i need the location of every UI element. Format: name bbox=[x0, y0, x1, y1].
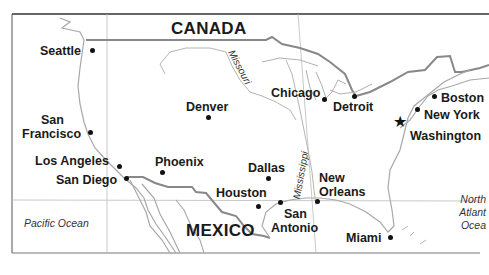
ocean-label-north-atlantic: North Atlant Ocea bbox=[440, 193, 486, 232]
city-marker-miami bbox=[388, 235, 393, 240]
city-label-dallas: Dallas bbox=[248, 161, 285, 175]
city-label-line: San bbox=[271, 207, 318, 221]
city-label-new-orleans: New Orleans bbox=[319, 171, 366, 199]
grid-parallel bbox=[12, 200, 480, 201]
city-label-houston: Houston bbox=[216, 186, 267, 200]
city-label-detroit: Detroit bbox=[333, 100, 373, 114]
city-label-miami: Miami bbox=[346, 231, 381, 245]
city-label-seattle: Seattle bbox=[40, 44, 81, 58]
capital-star-icon: ★ bbox=[393, 114, 407, 130]
city-marker-san-antonio bbox=[278, 200, 283, 205]
city-label-washington: Washington bbox=[410, 129, 481, 143]
city-marker-boston bbox=[432, 94, 437, 99]
city-marker-san-diego bbox=[124, 176, 129, 181]
city-label-san-francisco: San Francisco bbox=[22, 113, 81, 141]
city-marker-dallas bbox=[266, 176, 271, 181]
city-marker-new-orleans bbox=[315, 199, 320, 204]
country-label-mexico: MEXICO bbox=[186, 221, 255, 241]
city-marker-phoenix bbox=[160, 170, 165, 175]
city-label-chicago: Chicago bbox=[271, 86, 320, 100]
city-label-line: Antonio bbox=[271, 221, 318, 235]
city-marker-seattle bbox=[90, 48, 95, 53]
city-marker-chicago bbox=[322, 97, 327, 102]
city-label-san-antonio: San Antonio bbox=[271, 207, 318, 235]
city-marker-los-angeles bbox=[117, 164, 122, 169]
city-marker-detroit bbox=[352, 94, 357, 99]
ocean-label-line: North bbox=[440, 193, 486, 206]
ocean-label-line: Atlant bbox=[440, 206, 486, 219]
city-label-los-angeles: Los Angeles bbox=[35, 154, 109, 168]
country-label-canada: CANADA bbox=[171, 19, 246, 39]
city-marker-new-york bbox=[415, 107, 420, 112]
city-label-line: Francisco bbox=[22, 127, 81, 141]
city-marker-houston bbox=[256, 204, 261, 209]
city-label-new-york: New York bbox=[424, 108, 480, 122]
city-label-denver: Denver bbox=[186, 100, 228, 114]
ocean-label-pacific: Pacific Ocean bbox=[24, 217, 89, 230]
city-label-line: San bbox=[22, 113, 81, 127]
city-label-boston: Boston bbox=[441, 91, 484, 105]
city-marker-denver bbox=[206, 115, 211, 120]
baja-coastline bbox=[130, 180, 180, 253]
city-label-line: New bbox=[319, 171, 366, 185]
caribbean-islands bbox=[402, 226, 426, 244]
city-label-phoenix: Phoenix bbox=[155, 155, 204, 169]
ocean-label-line: Ocea bbox=[440, 219, 486, 232]
city-marker-san-francisco bbox=[88, 130, 93, 135]
city-label-san-diego: San Diego bbox=[56, 173, 117, 187]
city-label-line: Orleans bbox=[319, 185, 366, 199]
